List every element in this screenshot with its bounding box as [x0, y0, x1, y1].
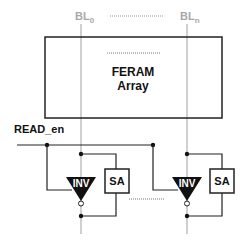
svg-text:INV: INV — [73, 178, 90, 189]
junction-dot — [79, 214, 83, 218]
array-subtitle: Array — [117, 79, 149, 93]
svg-text:SA: SA — [109, 175, 124, 187]
inverter-bubble — [185, 201, 190, 206]
column-0: SA INV — [47, 145, 129, 218]
read-en-label: READ_en — [14, 123, 64, 135]
svg-text:INV: INV — [179, 178, 196, 189]
junction-dot — [185, 214, 189, 218]
bitline-0-label: BL0 — [75, 10, 95, 25]
inverter-bubble — [79, 201, 84, 206]
array-title: FERAM — [112, 65, 155, 79]
bitline-n-label: BLn — [180, 10, 200, 25]
svg-text:SA: SA — [214, 175, 229, 187]
column-n: SA INV — [153, 145, 234, 218]
feram-read-circuit: BL0 BLn FERAM Array READ_en SA INV SA IN… — [0, 0, 246, 245]
